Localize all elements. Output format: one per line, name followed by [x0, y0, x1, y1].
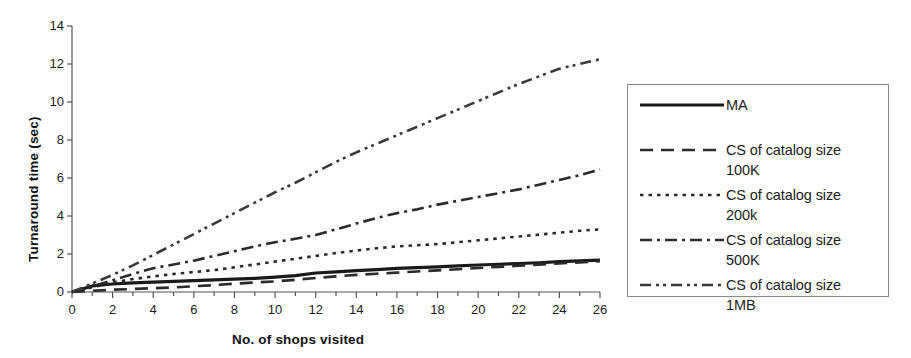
legend-item-5[interactable]: CS of catalog size 1MB — [638, 275, 882, 315]
legend-line-sample-icon — [638, 99, 726, 113]
legend-item-label: MA — [726, 95, 748, 115]
legend-item-1[interactable]: MA — [638, 95, 882, 115]
legend-item-label: CS of catalog size 100K — [726, 140, 841, 180]
legend-item-label: CS of catalog size 500K — [726, 230, 841, 270]
legend-line-sample-icon — [638, 234, 726, 248]
plot-area: Turnaround time (sec) No. of shops visit… — [0, 0, 620, 358]
chart-legend: MACS of catalog size 100KCS of catalog s… — [627, 84, 889, 297]
series-line-4 — [72, 169, 600, 292]
chart-plot-svg — [0, 0, 620, 358]
series-line-5 — [72, 59, 600, 292]
legend-line-sample-icon — [638, 279, 726, 293]
legend-item-4[interactable]: CS of catalog size 500K — [638, 230, 882, 270]
chart-figure: Turnaround time (sec) No. of shops visit… — [0, 0, 911, 358]
legend-item-label: CS of catalog size 200k — [726, 185, 841, 225]
legend-line-sample-icon — [638, 189, 726, 203]
legend-item-3[interactable]: CS of catalog size 200k — [638, 185, 882, 225]
legend-item-label: CS of catalog size 1MB — [726, 275, 841, 315]
legend-line-sample-icon — [638, 144, 726, 158]
series-line-2 — [72, 261, 600, 292]
legend-item-2[interactable]: CS of catalog size 100K — [638, 140, 882, 180]
